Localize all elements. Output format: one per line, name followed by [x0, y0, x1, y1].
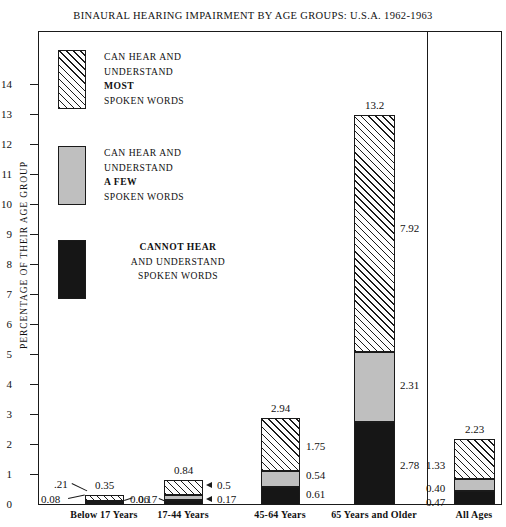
legend-line: SPOKEN WORDS — [104, 190, 254, 205]
y-tick-mark — [30, 354, 39, 355]
bar-total-label: 0.84 — [154, 465, 214, 476]
bar-total-label: 13.2 — [345, 100, 405, 111]
segment-label-most-2: 1.75 — [306, 441, 325, 452]
legend-label-few: CAN HEAR AND UNDERSTAND A FEW SPOKEN WOR… — [104, 146, 254, 204]
bar-total-label: 2.94 — [251, 403, 311, 414]
chart-title: BINAURAL HEARING IMPAIRMENT BY AGE GROUP… — [0, 10, 506, 21]
segment-cannot-hear — [454, 491, 495, 505]
segment-label-few-2: 0.54 — [306, 470, 325, 481]
bar-3 — [354, 115, 395, 505]
legend-line: UNDERSTAND — [104, 65, 254, 80]
y-tick-mark — [30, 204, 39, 205]
y-tick-label: 4 — [0, 379, 12, 390]
y-tick-label: 1 — [0, 469, 12, 480]
y-tick-mark — [30, 114, 39, 115]
y-tick-label: 3 — [0, 409, 12, 420]
segment-most — [261, 418, 300, 471]
segment-label-most-0: .21 — [54, 479, 68, 490]
segment-label-none-2: 0.61 — [306, 489, 325, 500]
black-swatch-icon — [58, 240, 86, 299]
y-tick-mark — [30, 144, 39, 145]
y-tick-mark — [30, 174, 39, 175]
segment-a-few — [354, 352, 395, 421]
y-tick-mark — [30, 84, 39, 85]
segment-most — [164, 480, 203, 495]
segment-cannot-hear — [261, 487, 300, 505]
y-tick-label: 12 — [0, 139, 12, 150]
segment-cannot-hear — [85, 503, 124, 505]
segment-most — [354, 115, 395, 353]
segment-a-few — [261, 471, 300, 487]
all-ages-panel-divider — [427, 31, 428, 505]
hearing-impairment-chart: BINAURAL HEARING IMPAIRMENT BY AGE GROUP… — [0, 0, 506, 527]
bar-0 — [85, 495, 124, 506]
legend-line: CAN HEAR AND — [104, 50, 254, 65]
bar-total-label: 2.23 — [445, 424, 505, 435]
y-tick-label: 11 — [0, 169, 12, 180]
y-tick-label: 9 — [0, 229, 12, 240]
segment-label-none-3: 2.78 — [400, 460, 419, 471]
legend-label-most: CAN HEAR AND UNDERSTAND MOST SPOKEN WORD… — [104, 50, 254, 108]
segment-label-none-4: 0.47 — [426, 497, 445, 508]
legend-line: SPOKEN WORDS — [104, 94, 254, 109]
y-axis-title: PERCENTAGE OF THEIR AGE GROUP — [19, 145, 29, 365]
segment-most — [454, 439, 495, 479]
legend-label-none: CANNOT HEAR AND UNDERSTAND SPOKEN WORDS — [98, 240, 258, 284]
y-tick-mark — [30, 474, 39, 475]
y-tick-label: 2 — [0, 439, 12, 450]
y-tick-label: 14 — [0, 79, 12, 90]
legend-line: CAN HEAR AND — [104, 146, 254, 161]
bar-1 — [164, 480, 203, 505]
y-tick-mark — [30, 444, 39, 445]
y-tick-mark — [30, 324, 39, 325]
legend-line: CANNOT HEAR — [98, 240, 258, 255]
y-tick-label: 5 — [0, 349, 12, 360]
segment-label-none-1: 0.17 — [138, 494, 157, 505]
y-tick-mark — [30, 294, 39, 295]
y-tick-mark — [30, 414, 39, 415]
y-tick-mark — [30, 234, 39, 235]
y-tick-label: 8 — [0, 259, 12, 270]
legend-line: UNDERSTAND — [104, 161, 254, 176]
legend-line: SPOKEN WORDS — [98, 269, 258, 284]
segment-a-few — [454, 479, 495, 491]
segment-label-most-1: 0.5 — [217, 480, 231, 491]
segment-label-few-1: 0.17 — [217, 494, 236, 505]
y-tick-mark — [30, 264, 39, 265]
gray-swatch-icon — [58, 146, 86, 205]
segment-label-most-3: 7.92 — [400, 223, 419, 234]
y-tick-label: 13 — [0, 109, 12, 120]
y-tick-mark — [30, 384, 39, 385]
legend-line: AND UNDERSTAND — [98, 255, 258, 270]
y-tick-label: 10 — [0, 199, 12, 210]
segment-label-few-4: 0.40 — [426, 483, 445, 494]
segment-cannot-hear — [354, 422, 395, 505]
y-tick-label: 0 — [0, 499, 12, 510]
segment-label-most-4: 1.33 — [426, 460, 445, 471]
x-axis-label-4: All Ages — [404, 509, 506, 520]
arrow-icon — [206, 496, 212, 502]
segment-label-none-0: 0.08 — [41, 494, 60, 505]
arrow-icon — [206, 482, 212, 488]
bar-2 — [261, 418, 300, 505]
y-tick-label: 7 — [0, 289, 12, 300]
legend-line: A FEW — [104, 175, 254, 190]
legend-line: MOST — [104, 79, 254, 94]
y-tick-label: 6 — [0, 319, 12, 330]
hatched-swatch-icon — [58, 50, 86, 109]
segment-label-few-3: 2.31 — [400, 380, 419, 391]
bar-4 — [454, 439, 495, 505]
